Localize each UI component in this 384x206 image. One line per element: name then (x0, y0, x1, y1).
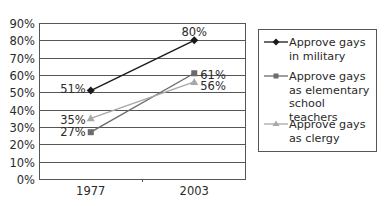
legend-item-clergy: Approve gays as clergy (263, 118, 375, 145)
square-marker-icon (263, 70, 289, 82)
legend-label-line: as elementary (289, 84, 375, 98)
triangle-marker-icon (190, 78, 198, 85)
data-label: 35% (60, 113, 86, 127)
square-marker-icon (191, 70, 197, 76)
y-tick-label: 70% (9, 52, 35, 66)
legend-item-teachers: Approve gays as elementary school teache… (263, 70, 375, 124)
legend-label-line: Approve gays (289, 36, 375, 50)
legend-label-line: as clergy (289, 132, 375, 146)
y-tick-label: 40% (9, 104, 35, 118)
y-tick-label: 30% (9, 121, 35, 135)
y-tick-label: 60% (9, 69, 35, 83)
y-tick-label: 20% (9, 138, 35, 152)
x-tick-label: 1977 (76, 184, 105, 198)
x-axis-ticks: 19772003 (76, 184, 209, 198)
y-axis-ticks: 0%10%20%30%40%50%60%70%80%90% (9, 17, 35, 187)
legend-item-military: Approve gays in military (263, 36, 375, 63)
data-label: 51% (60, 82, 86, 96)
data-label: 80% (181, 25, 207, 39)
legend-label-line: in military (289, 50, 375, 64)
data-series: 51%80%27%61%35%56% (60, 25, 226, 139)
diamond-marker-icon (87, 87, 95, 95)
y-tick-label: 10% (9, 156, 35, 170)
square-marker-icon (88, 129, 94, 135)
y-tick-label: 90% (9, 17, 35, 31)
legend-label-line: Approve gays (289, 118, 375, 132)
y-tick-label: 50% (9, 86, 35, 100)
series-line (91, 40, 195, 90)
legend: Approve gays in military Approve gays as… (258, 29, 377, 152)
y-tick-label: 80% (9, 34, 35, 48)
legend-label-line: Approve gays (289, 70, 375, 84)
x-tick-label: 2003 (180, 184, 209, 198)
data-label: 56% (200, 79, 226, 93)
triangle-marker-icon (263, 118, 289, 130)
diamond-marker-icon (263, 36, 289, 48)
series-line (91, 73, 195, 132)
y-tick-label: 0% (17, 173, 35, 187)
series-line (91, 82, 195, 118)
